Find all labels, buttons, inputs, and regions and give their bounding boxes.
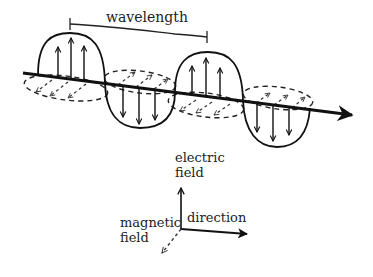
electric-label-line2: field	[175, 165, 204, 180]
electric-label-line1: electric	[175, 150, 225, 165]
direction-axis	[181, 229, 247, 234]
magnetic-field-axis	[162, 229, 181, 253]
magnetic-label-line2: field	[120, 230, 149, 245]
direction-label: direction	[187, 210, 247, 225]
propagation-axis	[23, 73, 352, 115]
magnetic-field-wave	[23, 67, 314, 122]
wavelength-label: wavelength	[106, 9, 188, 25]
magnetic-label-line1: magnetic	[120, 215, 181, 230]
em-wave-diagram: wavelength	[0, 0, 373, 277]
